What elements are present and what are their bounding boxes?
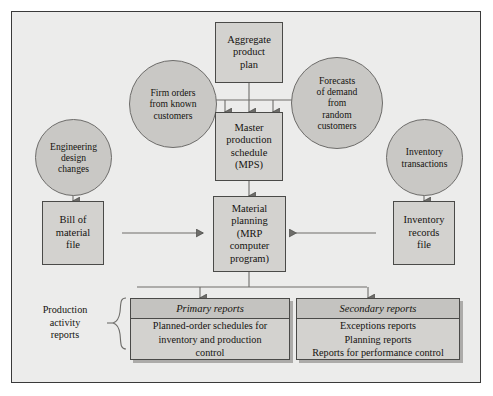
material-planning-label: Material planning (MRP computer program) — [230, 203, 270, 265]
node-aggregate-product-plan: Aggregate product plan — [215, 22, 283, 83]
primary-reports-body: Planned-order schedules for inventory an… — [131, 319, 289, 359]
aggregate-product-plan-label: Aggregate product plan — [227, 34, 271, 71]
production-activity-reports-label: Production activity reports — [26, 304, 104, 342]
mrp-diagram: Aggregate product plan Firm orders from … — [0, 0, 493, 396]
inventory-records-file-label: Inventory records file — [404, 214, 445, 251]
panel-primary-reports: Primary reports Planned-order schedules … — [130, 298, 290, 360]
node-bill-of-material-file: Bill of material file — [42, 201, 104, 265]
secondary-reports-header: Secondary reports — [297, 299, 459, 319]
node-forecasts-of-demand: Forecasts of demand from random customer… — [291, 57, 383, 149]
node-inventory-records-file: Inventory records file — [393, 201, 455, 265]
node-engineering-design-changes: Engineering design changes — [35, 119, 112, 196]
inventory-transactions-label: Inventory transactions — [402, 146, 448, 168]
primary-reports-header: Primary reports — [131, 299, 289, 319]
panel-secondary-reports: Secondary reports Exceptions reports Pla… — [296, 298, 460, 360]
secondary-reports-body: Exceptions reports Planning reports Repo… — [297, 319, 459, 359]
node-material-planning: Material planning (MRP computer program) — [213, 196, 286, 272]
engineering-design-changes-label: Engineering design changes — [50, 141, 97, 175]
node-firm-orders: Firm orders from known customers — [129, 60, 217, 148]
master-production-schedule-label: Master production schedule (MPS) — [226, 122, 272, 172]
node-master-production-schedule: Master production schedule (MPS) — [215, 112, 283, 181]
bill-of-material-file-label: Bill of material file — [56, 214, 90, 251]
firm-orders-label: Firm orders from known customers — [149, 87, 196, 121]
forecasts-of-demand-label: Forecasts of demand from random customer… — [317, 75, 358, 131]
node-inventory-transactions: Inventory transactions — [386, 119, 463, 196]
